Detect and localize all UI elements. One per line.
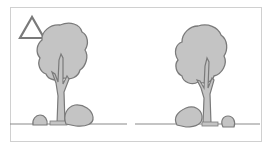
shrub-large [65,105,93,126]
shrub-small [33,115,47,125]
tree-base [202,122,218,126]
right-tree [175,25,234,127]
tree-canopy [175,25,226,84]
left-tree [33,23,93,126]
tree-base [50,121,67,125]
shrub-large [175,107,202,127]
shrub-small [222,116,235,127]
tree-diagram [0,0,271,147]
triangle-marker-icon [20,17,44,38]
